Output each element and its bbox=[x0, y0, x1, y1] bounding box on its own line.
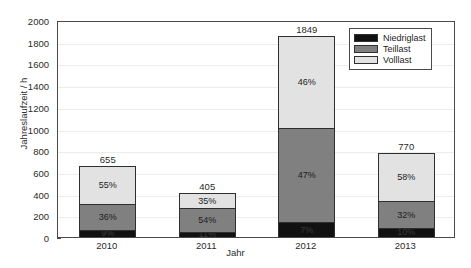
segment-percent-label: 58% bbox=[397, 173, 415, 182]
bar-total-label-2010: 655 bbox=[80, 154, 135, 167]
bar-chart: Jahreslaufzeit / h Jahr 0200400600800100… bbox=[0, 0, 471, 268]
x-tick-label-2010: 2010 bbox=[77, 240, 137, 251]
segment-percent-label: 9% bbox=[101, 230, 114, 237]
bar-total-label-2013: 770 bbox=[379, 141, 434, 154]
segment-percent-label: 46% bbox=[298, 78, 316, 87]
bar-segment-niedriglast-2010: 9% bbox=[80, 230, 135, 237]
bar-segment-niedriglast-2013: 10% bbox=[379, 228, 434, 237]
y-tick-label: 400 bbox=[3, 189, 49, 200]
y-tick-label: 1600 bbox=[3, 59, 49, 70]
bar-2010: 55%36%9%655 bbox=[79, 166, 136, 237]
x-tick-label-2013: 2013 bbox=[375, 240, 435, 251]
bar-segment-volllast-2013: 58% bbox=[379, 154, 434, 201]
bar-segment-volllast-2010: 55% bbox=[80, 167, 135, 204]
y-tick-label: 800 bbox=[3, 146, 49, 157]
legend-label: Niedriglast bbox=[383, 33, 426, 43]
y-tick-label: 0 bbox=[3, 233, 49, 244]
legend: NiedriglastTeillastVolllast bbox=[349, 28, 432, 70]
segment-percent-label: 47% bbox=[298, 171, 316, 180]
bar-segment-niedriglast-2012: 7% bbox=[279, 222, 334, 237]
bar-2012: 46%47%7%1849 bbox=[278, 36, 335, 237]
legend-item-teillast: Teillast bbox=[354, 44, 426, 54]
segment-percent-label: 55% bbox=[99, 181, 117, 190]
segment-percent-label: 10% bbox=[397, 228, 415, 237]
legend-item-niedriglast: Niedriglast bbox=[354, 33, 426, 43]
bar-segment-teillast-2012: 47% bbox=[279, 128, 334, 222]
y-tick-label: 1400 bbox=[3, 81, 49, 92]
segment-percent-label: 54% bbox=[198, 216, 216, 225]
y-tick-label: 600 bbox=[3, 167, 49, 178]
y-tick-label: 200 bbox=[3, 211, 49, 222]
x-tick-label-2011: 2011 bbox=[176, 240, 236, 251]
legend-label: Teillast bbox=[383, 44, 411, 54]
bar-segment-volllast-2012: 46% bbox=[279, 37, 334, 128]
bar-total-label-2011: 405 bbox=[180, 181, 235, 194]
y-tick-mark bbox=[57, 238, 61, 239]
y-tick-label: 1800 bbox=[3, 37, 49, 48]
bar-2013: 58%32%10%770 bbox=[378, 153, 435, 237]
bar-segment-teillast-2013: 32% bbox=[379, 201, 434, 228]
legend-swatch-teillast bbox=[354, 45, 378, 53]
bar-total-label-2012: 1849 bbox=[279, 24, 334, 37]
bar-segment-teillast-2011: 54% bbox=[180, 208, 235, 231]
legend-item-volllast: Volllast bbox=[354, 55, 426, 65]
y-tick-label: 1200 bbox=[3, 102, 49, 113]
legend-swatch-niedriglast bbox=[354, 34, 378, 42]
bar-2011: 35%54%11%405 bbox=[179, 193, 236, 237]
y-tick-label: 2000 bbox=[3, 16, 49, 27]
y-tick-label: 1000 bbox=[3, 124, 49, 135]
segment-percent-label: 7% bbox=[300, 226, 313, 235]
segment-percent-label: 35% bbox=[198, 197, 216, 206]
segment-percent-label: 32% bbox=[397, 211, 415, 220]
legend-swatch-volllast bbox=[354, 56, 378, 64]
legend-label: Volllast bbox=[383, 55, 412, 65]
bar-segment-teillast-2010: 36% bbox=[80, 204, 135, 230]
segment-percent-label: 11% bbox=[199, 232, 216, 238]
bar-segment-niedriglast-2011: 11% bbox=[180, 232, 235, 238]
bar-segment-volllast-2011: 35% bbox=[180, 194, 235, 208]
x-tick-label-2012: 2012 bbox=[276, 240, 336, 251]
segment-percent-label: 36% bbox=[99, 213, 117, 222]
